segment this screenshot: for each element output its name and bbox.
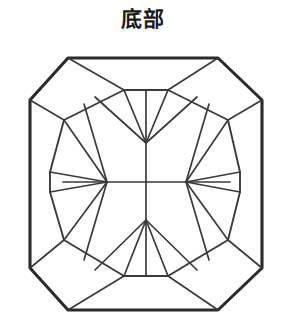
gem-pavilion-diagram	[0, 0, 286, 336]
gem-pavilion-figure: 底部	[0, 0, 286, 336]
